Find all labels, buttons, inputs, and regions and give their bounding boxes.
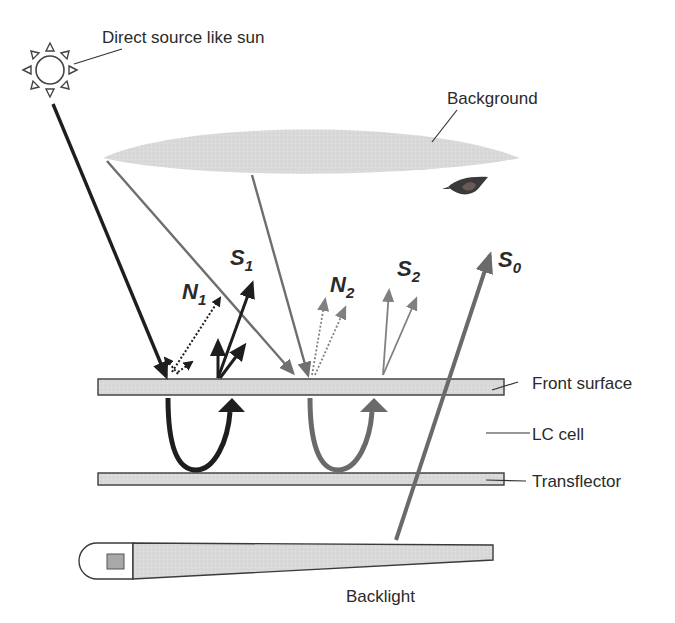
sun-label-leader	[74, 49, 122, 64]
background-shape	[103, 129, 520, 173]
s2-label: S2	[397, 256, 421, 285]
background-ray-1	[107, 161, 293, 373]
backlight-label: Backlight	[346, 587, 415, 606]
sun-icon	[23, 43, 77, 97]
s1-rays	[218, 284, 252, 378]
lc-reflection-arrow-gray	[310, 398, 388, 470]
n1-label: N1	[182, 279, 206, 308]
s0-label: S0	[498, 247, 522, 276]
background-label: Background	[447, 89, 538, 108]
lc-reflection-arrow-dark	[168, 398, 245, 470]
transflector-label: Transflector	[532, 472, 621, 491]
lc-cell-label: LC cell	[532, 425, 584, 444]
s1-label: S1	[230, 245, 253, 274]
backlight-wedge	[133, 543, 493, 579]
n2-label: N2	[330, 272, 355, 301]
eye-icon	[442, 177, 488, 195]
diagram-canvas: Direct source like sun Background Front …	[0, 0, 675, 623]
n2-rays	[312, 300, 345, 375]
background-ray-2	[252, 175, 308, 375]
transflector-panel	[98, 473, 504, 485]
front-surface-label: Front surface	[532, 374, 632, 393]
n1-rays	[165, 298, 220, 374]
background-label-leader	[432, 110, 457, 142]
s0-backlight-ray	[396, 255, 490, 540]
s2-rays	[383, 291, 416, 375]
sun-label: Direct source like sun	[102, 28, 265, 47]
backlight-lamp-icon	[79, 543, 133, 579]
